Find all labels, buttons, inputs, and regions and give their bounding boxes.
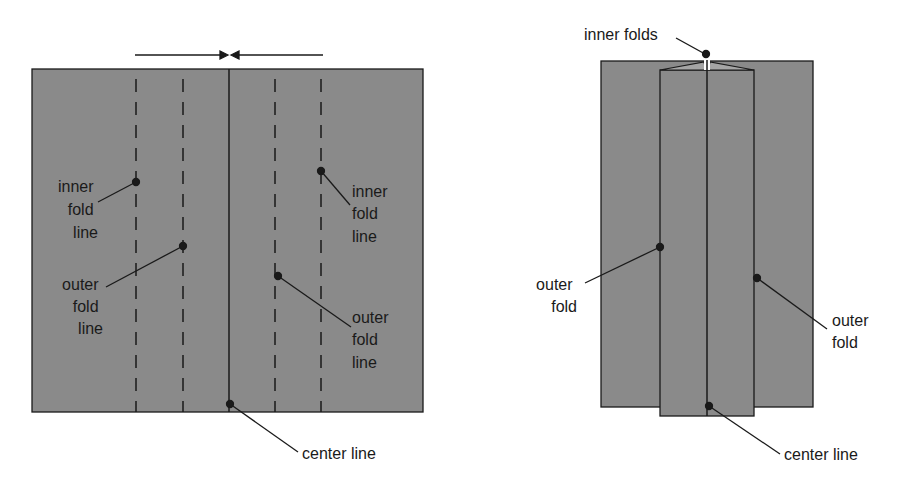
dot-center-folded	[706, 403, 713, 410]
dot-inner-right	[318, 168, 325, 175]
label-center-line-right: center line	[784, 446, 858, 463]
leader-inner-folds	[676, 38, 705, 54]
dot-outer-left	[180, 243, 187, 250]
dot-outer-right	[275, 273, 282, 280]
fold-arrows	[135, 51, 323, 59]
label-inner-folds: inner folds	[584, 26, 658, 43]
dot-inner-left	[133, 179, 140, 186]
label-outer-fold-left: outer fold	[536, 276, 577, 315]
left-diagram: inner fold line outer fold line inner fo…	[32, 51, 423, 462]
dot-center	[227, 401, 234, 408]
label-outer-fold-right: outer fold	[832, 312, 873, 351]
dot-outer-right-folded	[754, 275, 761, 282]
dot-inner-folds	[703, 51, 710, 58]
right-diagram: inner folds outer fold outer fold center…	[536, 26, 873, 463]
dot-outer-left-folded	[657, 244, 664, 251]
arrow-right-head-icon	[220, 51, 228, 59]
label-center-line-left: center line	[302, 445, 376, 462]
folding-diagram: inner fold line outer fold line inner fo…	[0, 0, 897, 486]
arrow-left-head-icon	[231, 51, 239, 59]
